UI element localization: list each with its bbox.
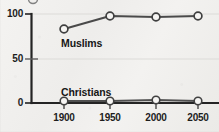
x-tick-label-1900: 1900 (44, 112, 84, 123)
data-point-muslims-2000 (152, 13, 160, 21)
chart-figure: 100 50 0 1900 1950 2000 2050 Muslims Chr… (0, 0, 219, 132)
data-point-muslims-1900 (60, 25, 68, 33)
x-tick-label-2000: 2000 (136, 112, 176, 123)
data-point-muslims-1950 (106, 12, 114, 20)
data-point-christians-1900 (60, 97, 68, 105)
gridlines (31, 14, 219, 59)
series-label-muslims: Muslims (61, 37, 102, 49)
data-point-christians-2000 (152, 96, 160, 104)
x-tick-label-2050: 2050 (178, 112, 218, 123)
y-tick-label-0: 0 (0, 97, 23, 108)
y-tick-label-100: 100 (0, 8, 23, 19)
series-muslims (60, 12, 202, 33)
y-tick-label-50: 50 (0, 53, 23, 64)
x-tick-label-1950: 1950 (90, 112, 130, 123)
data-point-muslims-2050 (194, 12, 202, 20)
data-point-christians-2050 (194, 97, 202, 105)
series-label-christians: Christians (61, 86, 111, 98)
data-point-christians-1950 (106, 97, 114, 105)
clipped-marker-top (29, 0, 38, 4)
